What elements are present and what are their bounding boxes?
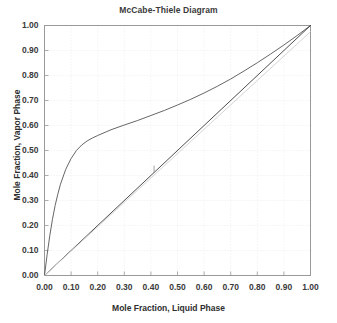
y-tick-label: 0.00 xyxy=(5,270,39,280)
x-tick-label: 1.00 xyxy=(294,282,328,292)
y-tick-label: 0.90 xyxy=(5,45,39,55)
y-tick-label: 1.00 xyxy=(5,20,39,30)
y-tick-label: 0.10 xyxy=(5,245,39,255)
plot-canvas xyxy=(0,0,337,323)
mccabe-thiele-chart: McCabe-Thiele Diagram 0.000.100.200.300.… xyxy=(0,0,337,323)
x-axis-title: Mole Fraction, Liquid Phase xyxy=(0,303,337,313)
y-axis-title: Mole Fraction, Vapor Phase xyxy=(12,65,22,225)
